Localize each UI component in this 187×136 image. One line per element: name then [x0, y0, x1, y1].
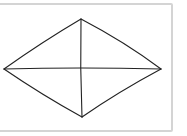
edge-top-right [81, 19, 161, 69]
diamond-diagram [0, 0, 187, 136]
edge-right-bottom [82, 69, 161, 117]
edge-bottom-left [4, 69, 82, 117]
edge-left-top [4, 19, 81, 69]
horizontal-diagonal [4, 68, 161, 69]
